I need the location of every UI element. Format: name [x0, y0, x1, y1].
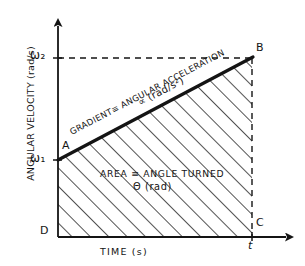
- y-tick-label-omega2: ω₂: [30, 48, 46, 62]
- theta-units-annotation: Θ (rad): [133, 181, 172, 192]
- point-label-b: B: [256, 41, 264, 54]
- y-tick-label-omega1: ω₁: [30, 151, 46, 165]
- area-annotation: AREA ≡ ANGLE TURNED: [100, 168, 224, 179]
- x-axis-label: TIME (s): [100, 246, 148, 257]
- point-label-a: A: [62, 139, 70, 152]
- point-label-c: C: [256, 216, 264, 229]
- x-tick-label-t: t: [248, 239, 253, 252]
- point-label-d: D: [40, 224, 49, 237]
